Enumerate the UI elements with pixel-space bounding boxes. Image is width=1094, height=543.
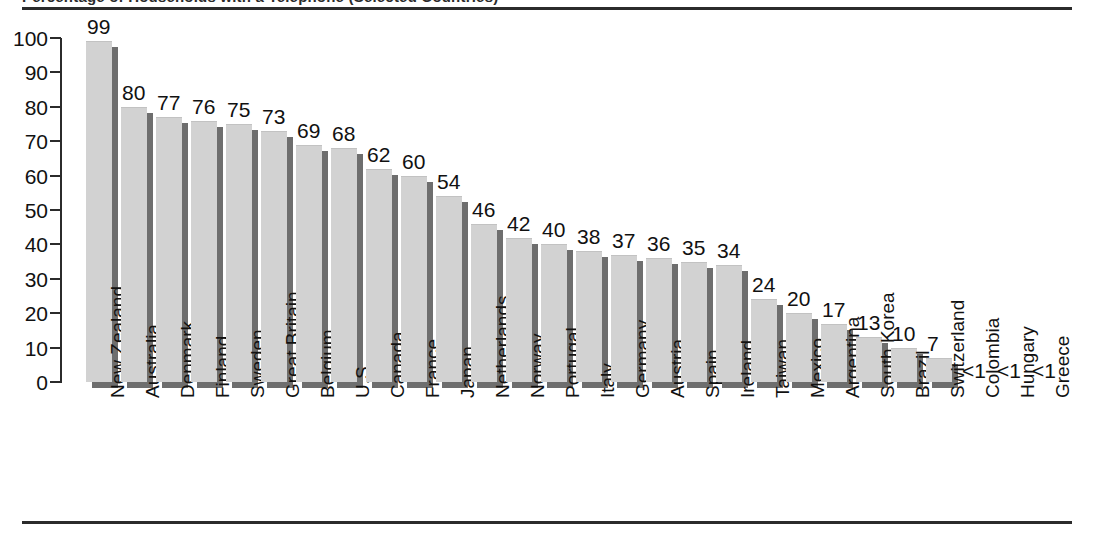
bar-chart: 010203040506070809010099New Zealand80Aus…	[0, 0, 1094, 543]
y-axis-tick	[50, 209, 61, 211]
y-axis-tick-label: 30	[0, 269, 48, 290]
y-axis-tick	[50, 71, 61, 73]
bar-value-label: 73	[262, 106, 285, 127]
bar-value-label: 80	[122, 82, 145, 103]
bar-value-label: 42	[507, 213, 530, 234]
bar-face	[331, 148, 357, 382]
bar-value-label: 40	[542, 219, 565, 240]
bar-value-label: 37	[612, 230, 635, 251]
y-axis-tick	[50, 312, 61, 314]
y-axis-tick-label: 90	[0, 62, 48, 83]
bar-value-label: 38	[577, 226, 600, 247]
bar-value-label: 7	[927, 333, 939, 354]
y-axis-tick-label: 50	[0, 200, 48, 221]
bar-value-label: 62	[367, 144, 390, 165]
y-axis-tick	[50, 37, 61, 39]
bar-value-label: 77	[157, 92, 180, 113]
bar-value-label: 10	[892, 323, 915, 344]
y-axis-tick-label: 70	[0, 131, 48, 152]
y-axis-tick-label: 0	[0, 372, 48, 393]
x-axis-category-label: Greece	[1053, 336, 1072, 398]
bar-value-label: 36	[647, 233, 670, 254]
y-axis-tick	[50, 278, 61, 280]
bar-value-label: 34	[717, 240, 740, 261]
bar-value-label: 69	[297, 120, 320, 141]
y-axis-tick	[50, 140, 61, 142]
bar-value-label: 54	[437, 171, 460, 192]
x-axis-category-label: Switzerland	[948, 300, 967, 398]
bar-value-label: 20	[787, 288, 810, 309]
bar-value-label: 75	[227, 99, 250, 120]
bar-value-label: 99	[87, 16, 110, 37]
bar-value-label: 68	[332, 123, 355, 144]
y-axis-tick-label: 60	[0, 166, 48, 187]
bar	[331, 148, 363, 388]
bar-value-label: 35	[682, 237, 705, 258]
bar-side-shadow	[357, 154, 363, 388]
y-axis-tick	[50, 243, 61, 245]
y-axis-tick-label: 20	[0, 303, 48, 324]
y-axis-tick-label: 40	[0, 234, 48, 255]
y-axis-tick	[50, 175, 61, 177]
y-axis-tick-label: 10	[0, 338, 48, 359]
y-axis-tick-label: 80	[0, 97, 48, 118]
x-axis-category-label: Colombia	[983, 318, 1002, 398]
bar-value-label: 46	[472, 199, 495, 220]
y-axis-tick	[50, 106, 61, 108]
y-axis-tick	[50, 381, 61, 383]
bar-value-label: 60	[402, 151, 425, 172]
bar-value-label: 24	[752, 274, 775, 295]
y-axis-tick-label: 100	[0, 28, 48, 49]
y-axis-tick	[50, 347, 61, 349]
bar-value-label: 76	[192, 96, 215, 117]
